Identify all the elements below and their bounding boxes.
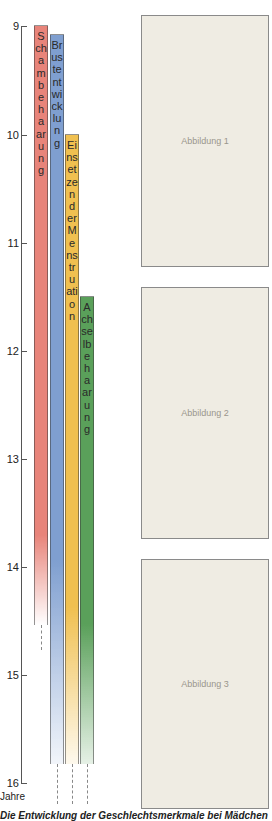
tick-16 (21, 783, 27, 784)
photo-panel-3: Abbildung 3 (141, 559, 269, 809)
axis-unit-label: Jahre (0, 791, 25, 802)
tick-label-14: 14 (0, 561, 19, 573)
tick-label-10: 10 (0, 129, 19, 141)
photo-placeholder-2: Abbildung 2 (142, 408, 268, 418)
tick-14 (21, 567, 27, 568)
age-axis (21, 26, 22, 783)
dashed-extension-achselbehaarung (87, 764, 88, 804)
tick-label-11: 11 (0, 237, 19, 249)
photo-panel-1: Abbildung 1 (141, 15, 269, 267)
tick-label-12: 12 (0, 345, 19, 357)
bar-menstruation: Einsetzen der Menstruation (65, 134, 79, 764)
dashed-extension-schambehaarung (41, 625, 42, 650)
tick-12 (21, 351, 27, 352)
tick-label-16: 16 (0, 777, 19, 789)
tick-label-13: 13 (0, 453, 19, 465)
tick-9 (21, 26, 27, 27)
bar-label-achselbehaarung: Achselbehaarung (81, 301, 93, 435)
bar-schambehaarung: Schambehaarung (34, 25, 48, 625)
bar-brustentwicklung: Brustentwicklung (50, 34, 64, 764)
tick-13 (21, 459, 27, 460)
photo-placeholder-1: Abbildung 1 (142, 136, 268, 146)
dashed-extension-brustentwicklung (57, 764, 58, 804)
photo-placeholder-3: Abbildung 3 (142, 679, 268, 689)
tick-label-15: 15 (0, 669, 19, 681)
tick-11 (21, 243, 27, 244)
tick-label-9: 9 (0, 20, 19, 32)
bar-label-brustentwicklung: Brustentwicklung (51, 39, 63, 149)
figure-caption: Die Entwicklung der Geschlechtsmerkmale … (0, 810, 268, 821)
bar-label-menstruation: Einsetzen der Menstruation (66, 139, 78, 322)
bar-achselbehaarung: Achselbehaarung (80, 296, 94, 764)
photo-panel-2: Abbildung 2 (141, 287, 269, 539)
bar-label-schambehaarung: Schambehaarung (35, 30, 47, 176)
tick-15 (21, 675, 27, 676)
dashed-extension-menstruation (72, 764, 73, 804)
tick-10 (21, 135, 27, 136)
